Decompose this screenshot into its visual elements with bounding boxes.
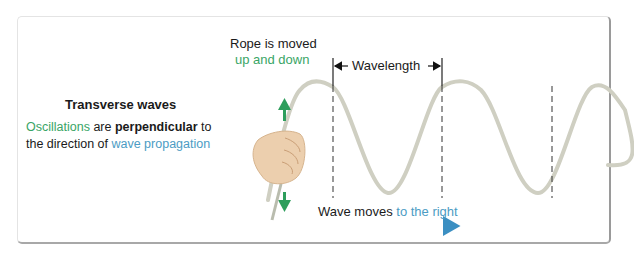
diagram-title: Transverse waves [65, 97, 176, 112]
description-line-1: Oscillations are perpendicular to [26, 120, 212, 134]
perpendicular-term: perpendicular [115, 120, 198, 134]
description-line-2: the direction of wave propagation [26, 137, 210, 151]
down-arrow-icon [278, 192, 291, 212]
wave-path [268, 81, 633, 200]
rope-label-line-1: Rope is moved [230, 36, 317, 51]
hand-icon [253, 131, 305, 220]
rope-label-line-2: up and down [235, 52, 309, 67]
wave-propagation-term: wave propagation [111, 137, 210, 151]
wave-motion-label: Wave moves to the right [318, 204, 458, 219]
oscillations-term: Oscillations [26, 120, 90, 134]
wavelength-label: Wavelength [352, 58, 420, 73]
